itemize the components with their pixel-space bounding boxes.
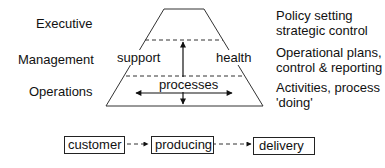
- processes-label: processes: [157, 77, 220, 92]
- flow-step-delivery: delivery: [253, 137, 315, 155]
- health-label: health: [216, 50, 251, 65]
- flow-step-customer: customer: [64, 136, 125, 154]
- support-label: support: [117, 50, 160, 65]
- flow-step-producing: producing: [151, 136, 214, 154]
